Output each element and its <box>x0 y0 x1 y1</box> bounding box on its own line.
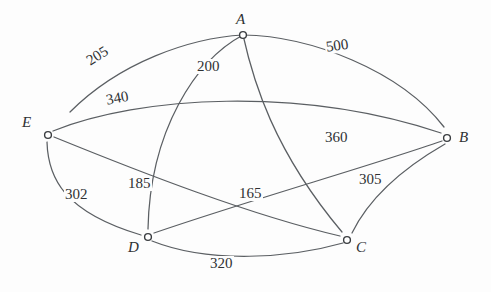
edge-weight-b-c: 305 <box>358 172 383 187</box>
graph-canvas <box>0 0 491 292</box>
graph-figure: 205500200185340360302165320305ABCDE <box>0 0 491 292</box>
node-label-d: D <box>128 240 139 255</box>
edge-weight-e-d: 302 <box>64 187 89 202</box>
edge-weight-a-d: 185 <box>127 176 152 191</box>
edge-weight-e-c: 360 <box>324 130 349 145</box>
node-c[interactable] <box>344 237 351 244</box>
node-e[interactable] <box>45 132 52 139</box>
edge-weight-d-c: 320 <box>209 256 234 271</box>
nodes-layer <box>45 32 451 244</box>
node-d[interactable] <box>145 234 152 241</box>
node-label-c: C <box>356 240 366 255</box>
node-label-a: A <box>236 12 245 27</box>
edge-weight-a-c: 200 <box>196 59 221 74</box>
node-a[interactable] <box>240 32 247 39</box>
node-b[interactable] <box>444 135 451 142</box>
edges-layer <box>47 35 445 256</box>
edge-d-c <box>152 241 343 256</box>
node-label-b: B <box>459 130 468 145</box>
edge-d-b <box>154 141 442 233</box>
edge-weight-d-b: 165 <box>238 186 263 201</box>
node-label-e: E <box>22 115 31 130</box>
edge-b-c <box>352 144 445 233</box>
